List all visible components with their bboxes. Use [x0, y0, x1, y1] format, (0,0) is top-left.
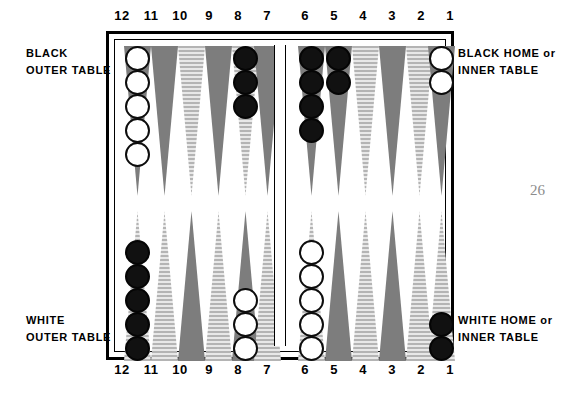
point-number-bottom-4: 4: [351, 362, 375, 377]
checker-white-point-12-top[interactable]: [125, 94, 150, 119]
board-inner-frame: [114, 39, 446, 352]
checker-white-point-8-bottom[interactable]: [233, 336, 258, 361]
point-3-bottom: [379, 211, 406, 361]
point-5-bottom: [325, 211, 352, 361]
caption-line-2: INNER TABLE: [458, 329, 553, 346]
checker-white-point-12-top[interactable]: [125, 118, 150, 143]
caption-line-1: BLACK: [26, 45, 111, 62]
point-3-top: [379, 46, 406, 196]
backgammon-figure: 121110987654321 121110987654321 BLACK OU…: [0, 0, 579, 394]
caption-black-home-table: BLACK HOME or INNER TABLE: [458, 45, 556, 79]
point-11-bottom: [151, 211, 178, 361]
point-number-top-4: 4: [351, 8, 375, 23]
point-4-top: [352, 46, 379, 196]
checker-black-point-12-bottom[interactable]: [125, 264, 150, 289]
point-10-top: [178, 46, 205, 196]
point-number-bottom-8: 8: [226, 362, 250, 377]
quadrant-black-outer-table: [121, 46, 283, 198]
checker-white-point-6-bottom[interactable]: [299, 288, 324, 313]
point-number-bottom-11: 11: [139, 362, 163, 377]
point-number-top-10: 10: [168, 8, 192, 23]
point-number-bottom-10: 10: [168, 362, 192, 377]
page-number: 26: [530, 182, 545, 199]
caption-line-2: OUTER TABLE: [26, 329, 111, 346]
checker-white-point-6-bottom[interactable]: [299, 312, 324, 337]
point-number-bottom-7: 7: [255, 362, 279, 377]
checker-black-point-6-top[interactable]: [299, 118, 324, 143]
point-9-top: [205, 46, 232, 196]
checker-white-point-8-bottom[interactable]: [233, 312, 258, 337]
checker-black-point-12-bottom[interactable]: [125, 312, 150, 337]
quadrant-black-home-table: [295, 46, 457, 198]
point-number-top-7: 7: [255, 8, 279, 23]
point-number-bottom-6: 6: [293, 362, 317, 377]
caption-line-1: WHITE HOME or: [458, 312, 553, 329]
board-frame: [106, 31, 454, 360]
point-4-bottom: [352, 211, 379, 361]
checker-black-point-8-top[interactable]: [233, 94, 258, 119]
checker-black-point-6-top[interactable]: [299, 46, 324, 71]
checker-black-point-12-bottom[interactable]: [125, 288, 150, 313]
checker-white-point-12-top[interactable]: [125, 46, 150, 71]
bottom-point-number-row: 121110987654321: [106, 362, 454, 380]
checker-black-point-6-top[interactable]: [299, 94, 324, 119]
caption-line-2: OUTER TABLE: [26, 62, 111, 79]
board-bar: [274, 45, 286, 346]
checker-white-point-12-top[interactable]: [125, 142, 150, 167]
point-number-top-6: 6: [293, 8, 317, 23]
checker-black-point-6-top[interactable]: [299, 70, 324, 95]
point-number-top-9: 9: [197, 8, 221, 23]
point-number-bottom-2: 2: [409, 362, 433, 377]
point-number-bottom-9: 9: [197, 362, 221, 377]
quadrant-white-outer-table: [121, 211, 283, 363]
checker-black-point-8-top[interactable]: [233, 70, 258, 95]
checker-white-point-1-top[interactable]: [429, 70, 454, 95]
point-9-bottom: [205, 211, 232, 361]
point-number-top-11: 11: [139, 8, 163, 23]
caption-white-outer-table: WHITE OUTER TABLE: [26, 312, 111, 346]
caption-line-2: INNER TABLE: [458, 62, 556, 79]
checker-black-point-5-top[interactable]: [326, 46, 351, 71]
point-11-top: [151, 46, 178, 196]
checker-black-point-12-bottom[interactable]: [125, 336, 150, 361]
checker-black-point-8-top[interactable]: [233, 46, 258, 71]
checker-black-point-1-bottom[interactable]: [429, 336, 454, 361]
top-point-number-row: 121110987654321: [106, 8, 454, 26]
checker-white-point-6-bottom[interactable]: [299, 336, 324, 361]
caption-white-home-table: WHITE HOME or INNER TABLE: [458, 312, 553, 346]
caption-line-1: BLACK HOME or: [458, 45, 556, 62]
caption-line-1: WHITE: [26, 312, 111, 329]
point-number-top-2: 2: [409, 8, 433, 23]
point-number-top-5: 5: [322, 8, 346, 23]
checker-white-point-8-bottom[interactable]: [233, 288, 258, 313]
quadrant-white-home-table: [295, 211, 457, 363]
checker-black-point-5-top[interactable]: [326, 70, 351, 95]
checker-black-point-1-bottom[interactable]: [429, 312, 454, 337]
checker-white-point-6-bottom[interactable]: [299, 264, 324, 289]
point-number-bottom-3: 3: [380, 362, 404, 377]
point-number-top-3: 3: [380, 8, 404, 23]
point-number-top-8: 8: [226, 8, 250, 23]
point-number-bottom-5: 5: [322, 362, 346, 377]
point-number-bottom-12: 12: [110, 362, 134, 377]
checker-white-point-12-top[interactable]: [125, 70, 150, 95]
checker-white-point-6-bottom[interactable]: [299, 240, 324, 265]
point-number-top-12: 12: [110, 8, 134, 23]
point-number-top-1: 1: [438, 8, 462, 23]
checker-black-point-12-bottom[interactable]: [125, 240, 150, 265]
point-number-bottom-1: 1: [438, 362, 462, 377]
checker-white-point-1-top[interactable]: [429, 46, 454, 71]
point-10-bottom: [178, 211, 205, 361]
caption-black-outer-table: BLACK OUTER TABLE: [26, 45, 111, 79]
